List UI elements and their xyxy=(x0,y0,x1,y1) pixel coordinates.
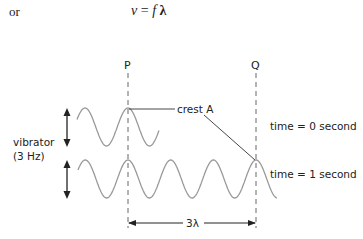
vibrator-frequency: (3 Hz) xyxy=(13,150,45,162)
label-q: Q xyxy=(251,59,260,72)
crest-a-label: crest A xyxy=(177,103,214,115)
vibrator-arrowhead-down-bottom xyxy=(64,191,71,199)
wave-time-1 xyxy=(78,160,277,198)
wave-time-0 xyxy=(77,108,159,146)
vibrator-arrowhead-up-bottom xyxy=(64,160,71,168)
time-0-label: time = 0 second xyxy=(270,120,357,132)
distance-label: 3λ xyxy=(186,217,199,229)
wave-diagram: P Q vibrator (3 Hz) crest A time = 0 sec… xyxy=(0,0,363,239)
label-p: P xyxy=(124,59,131,72)
vibrator-arrowhead-up-top xyxy=(64,108,71,116)
time-1-label: time = 1 second xyxy=(270,168,357,180)
crest-leader-diagonal xyxy=(204,115,255,160)
vibrator-arrowhead-down-top xyxy=(64,139,71,147)
vibrator-label: vibrator xyxy=(13,136,55,148)
